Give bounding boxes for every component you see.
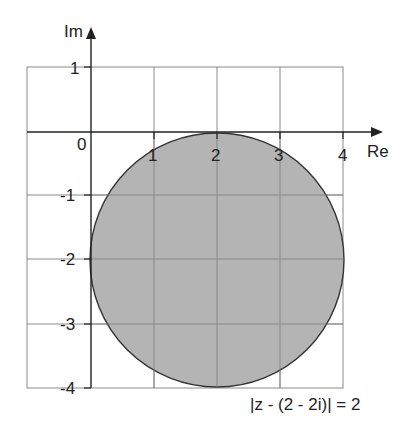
im-axis-arrow-icon [86, 27, 96, 39]
y-tick-label: 1 [70, 59, 79, 78]
y-tick-label: -3 [60, 315, 75, 334]
im-axis-label: Im [64, 22, 83, 41]
x-tick-label: 4 [338, 146, 347, 165]
y-tick-label: -4 [60, 379, 75, 398]
y-tick-label: -2 [60, 250, 75, 269]
re-axis-label: Re [367, 142, 389, 161]
x-tick-label: 2 [211, 146, 220, 165]
x-tick-label: 3 [274, 146, 283, 165]
y-tick-label: -1 [60, 186, 75, 205]
x-tick-label: 1 [148, 146, 157, 165]
re-axis-arrow-icon [371, 127, 383, 137]
region-equation: |z - (2 - 2i)| = 2 [250, 395, 360, 414]
argand-diagram: Im Re 0 1 2 3 4 1 -1 -2 -3 -4 |z - (2 - … [0, 0, 413, 438]
origin-label: 0 [77, 135, 86, 154]
